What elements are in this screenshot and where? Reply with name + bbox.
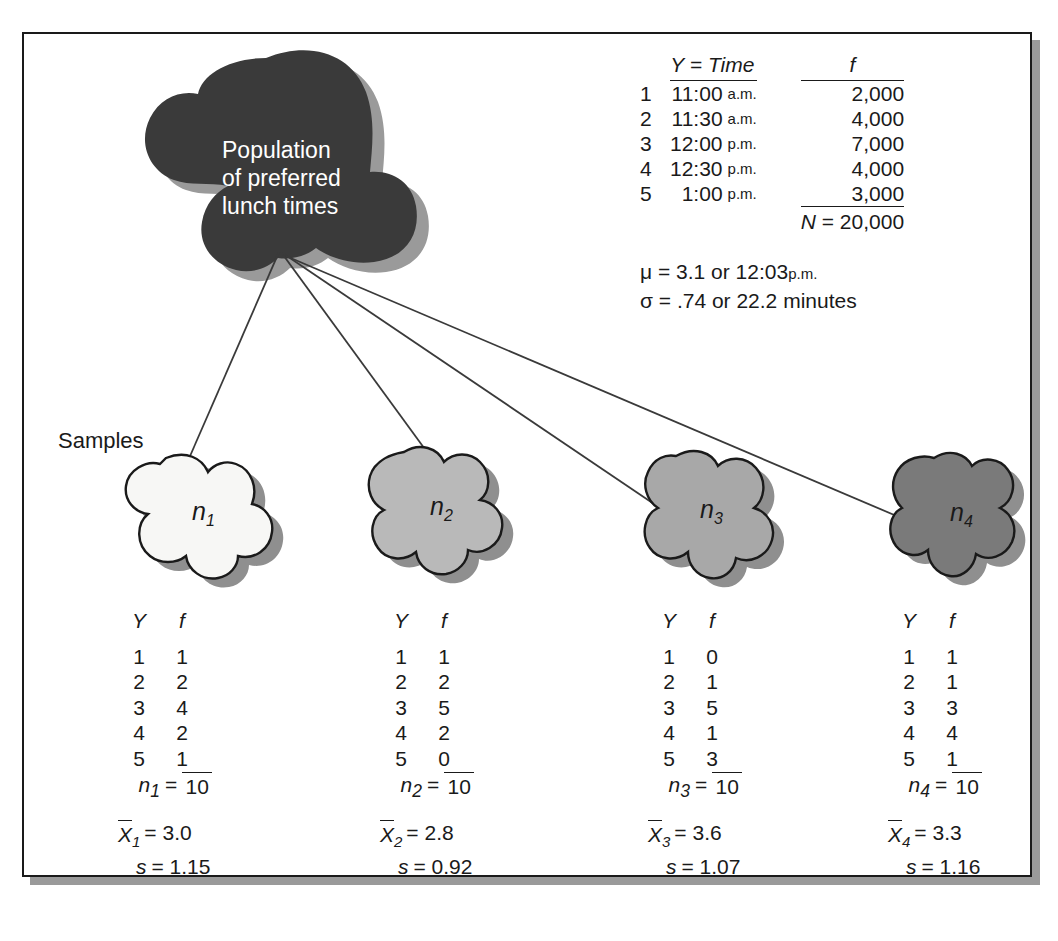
pop-row-frequency: 4,000 <box>801 106 904 131</box>
pop-row-time: 12:00 <box>670 131 725 156</box>
sample-row: 11 <box>380 644 474 670</box>
population-table-row: 2 11:30 a.m. 4,000 <box>640 106 904 131</box>
sample-table-header: Yf <box>648 608 742 634</box>
sample-row: 51 <box>118 746 212 772</box>
population-mean-line: μ = 3.1 or 12:03p.m. <box>640 258 857 287</box>
pop-row-frequency: 4,000 <box>801 156 904 181</box>
sample-size-row: n1 = 10 <box>118 772 212 805</box>
population-total-row: N = 20,000 <box>640 207 904 235</box>
sample-row: 22 <box>118 669 212 695</box>
sample-blob-label-3: n3 <box>700 495 723 528</box>
sample-table-header: Yf <box>888 608 982 634</box>
sample-stats-4: Yf 11 21 33 44 51 n4 = 10 X4 = 3.3 s = 1… <box>888 608 982 880</box>
population-frequency-table: Y = Time f 1 11:00 a.m. 2,000 2 11:30 a.… <box>640 52 904 234</box>
sample-sd-row: s = 1.16 <box>888 854 982 880</box>
pop-row-time: 1:00 <box>670 181 725 207</box>
sample-row: 33 <box>888 695 982 721</box>
sample-size-row: n3 = 10 <box>648 772 742 805</box>
sample-stats-2: Yf 11 22 35 42 50 n2 = 10 X2 = 2.8 s = 0… <box>380 608 474 880</box>
pop-row-meridiem: a.m. <box>725 81 757 107</box>
sample-sd-row: s = 1.15 <box>118 854 212 880</box>
pop-row-index: 5 <box>640 181 670 207</box>
pop-row-frequency: 7,000 <box>801 131 904 156</box>
sample-size-row: n4 = 10 <box>888 772 982 805</box>
population-caption-line-2: of preferred <box>222 165 341 191</box>
population-table-row: 3 12:00 p.m. 7,000 <box>640 131 904 156</box>
pop-row-index: 3 <box>640 131 670 156</box>
sample-row: 10 <box>648 644 742 670</box>
pop-row-time: 11:00 <box>670 81 725 107</box>
population-caption: Population of preferred lunch times <box>222 137 341 219</box>
samples-caption: Samples <box>58 428 144 454</box>
connector-to-sample-2 <box>281 252 427 452</box>
sample-row: 22 <box>380 669 474 695</box>
sample-blob-label-2: n2 <box>430 492 453 525</box>
sample-row: 53 <box>648 746 742 772</box>
sample-row: 42 <box>380 720 474 746</box>
population-table-row: 1 11:00 a.m. 2,000 <box>640 81 904 107</box>
pop-row-index: 4 <box>640 156 670 181</box>
population-header-f: f <box>801 52 904 81</box>
sample-sd-row: s = 0.92 <box>380 854 474 880</box>
population-table-header: Y = Time f <box>640 52 904 81</box>
sample-mean-row: X4 = 3.3 <box>888 820 982 855</box>
sample-row: 42 <box>118 720 212 746</box>
sample-row: 11 <box>888 644 982 670</box>
population-total: N = 20,000 <box>801 207 904 235</box>
sample-row: 41 <box>648 720 742 746</box>
sample-row: 35 <box>380 695 474 721</box>
sample-table-header: Yf <box>380 608 474 634</box>
sample-row: 21 <box>648 669 742 695</box>
sample-row: 44 <box>888 720 982 746</box>
sample-sd-row: s = 1.07 <box>648 854 742 880</box>
sample-row: 35 <box>648 695 742 721</box>
connector-to-sample-1 <box>187 252 279 463</box>
pop-row-meridiem: a.m. <box>725 106 757 131</box>
sample-blob-label-1: n1 <box>192 497 215 530</box>
population-sd-line: σ = .74 or 22.2 minutes <box>640 287 857 314</box>
pop-row-meridiem: p.m. <box>725 181 757 207</box>
pop-row-time: 11:30 <box>670 106 725 131</box>
pop-row-frequency: 2,000 <box>801 81 904 107</box>
sample-row: 50 <box>380 746 474 772</box>
sample-size-row: n2 = 10 <box>380 772 474 805</box>
figure-canvas: Population of preferred lunch times Samp… <box>0 0 1058 941</box>
population-table-row: 5 1:00 p.m. 3,000 <box>640 181 904 207</box>
sample-table-header: Yf <box>118 608 212 634</box>
sample-stats-3: Yf 10 21 35 41 53 n3 = 10 X3 = 3.6 s = 1… <box>648 608 742 880</box>
pop-row-frequency: 3,000 <box>801 181 904 207</box>
sample-mean-row: X1 = 3.0 <box>118 820 212 855</box>
pop-row-time: 12:30 <box>670 156 725 181</box>
pop-row-index: 1 <box>640 81 670 107</box>
sample-mean-row: X3 = 3.6 <box>648 820 742 855</box>
sample-blob-label-4: n4 <box>950 498 973 531</box>
pop-row-index: 2 <box>640 106 670 131</box>
sample-stats-1: Yf 11 22 34 42 51 n1 = 10 X1 = 3.0 s = 1… <box>118 608 212 880</box>
sample-mean-row: X2 = 2.8 <box>380 820 474 855</box>
sample-row: 21 <box>888 669 982 695</box>
population-parameters: μ = 3.1 or 12:03p.m. σ = .74 or 22.2 min… <box>640 258 857 314</box>
population-caption-line-1: Population <box>222 137 331 163</box>
sample-row: 51 <box>888 746 982 772</box>
sample-row: 11 <box>118 644 212 670</box>
population-header-y: Y = Time <box>670 52 757 81</box>
pop-row-meridiem: p.m. <box>725 131 757 156</box>
population-table-row: 4 12:30 p.m. 4,000 <box>640 156 904 181</box>
pop-row-meridiem: p.m. <box>725 156 757 181</box>
sample-row: 34 <box>118 695 212 721</box>
population-caption-line-3: lunch times <box>222 193 338 219</box>
